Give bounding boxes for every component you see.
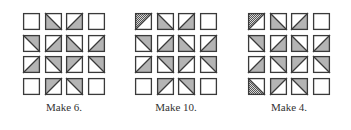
tile-e xyxy=(23,78,40,95)
tile-br xyxy=(248,56,265,73)
tile-br xyxy=(270,35,287,52)
tile-tr xyxy=(313,56,330,73)
tile-e xyxy=(135,78,152,95)
tile-tlh xyxy=(135,13,152,30)
tile-e xyxy=(88,13,105,30)
tile-tl xyxy=(291,56,308,73)
caption-make-6: Make 6. xyxy=(9,101,119,113)
tile-br xyxy=(178,13,195,30)
tile-bl xyxy=(66,35,83,52)
tile-tl xyxy=(45,78,62,95)
tile-br xyxy=(45,35,62,52)
tile-e xyxy=(200,78,217,95)
tile-tr xyxy=(66,78,83,95)
tile-br xyxy=(88,35,105,52)
tile-tl xyxy=(157,78,174,95)
tile-tr xyxy=(248,35,265,52)
tile-br xyxy=(313,35,330,52)
tile-tr xyxy=(270,56,287,73)
tile-bl xyxy=(291,35,308,52)
tile-tl xyxy=(270,78,287,95)
panel-make-10 xyxy=(135,13,217,95)
tile-bl xyxy=(178,35,195,52)
tile-br xyxy=(23,56,40,73)
tile-tr xyxy=(178,78,195,95)
tile-br xyxy=(135,56,152,73)
tile-grid xyxy=(23,13,105,95)
tile-e xyxy=(313,78,330,95)
tile-e xyxy=(88,78,105,95)
tile-br xyxy=(66,13,83,30)
tile-e xyxy=(200,13,217,30)
caption-make-4: Make 4. xyxy=(234,101,344,113)
tile-tr xyxy=(157,56,174,73)
tile-grid xyxy=(248,13,330,95)
tile-br xyxy=(291,13,308,30)
tile-bl xyxy=(45,13,62,30)
tile-bl xyxy=(157,13,174,30)
tile-tr xyxy=(45,56,62,73)
tile-bl xyxy=(270,13,287,30)
tile-tr xyxy=(135,35,152,52)
tile-tr xyxy=(23,35,40,52)
tile-tl xyxy=(178,56,195,73)
tile-br xyxy=(200,35,217,52)
tile-br xyxy=(157,35,174,52)
tile-blh xyxy=(248,78,265,95)
panel-make-4 xyxy=(248,13,330,95)
tile-tlh xyxy=(248,13,265,30)
panel-make-6 xyxy=(23,13,105,95)
tile-tr xyxy=(88,56,105,73)
tile-e xyxy=(313,13,330,30)
tile-tl xyxy=(66,56,83,73)
caption-make-10: Make 10. xyxy=(121,101,231,113)
tile-grid xyxy=(135,13,217,95)
tile-e xyxy=(23,13,40,30)
tile-tr xyxy=(200,56,217,73)
tile-tr xyxy=(291,78,308,95)
